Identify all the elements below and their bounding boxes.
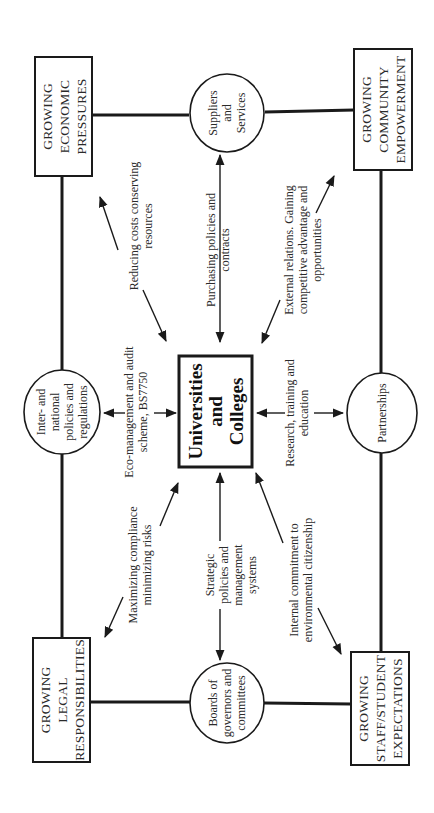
label-external-relations: External relations. Gaining competitive … <box>282 185 324 315</box>
circle-international-policies: Inter- and national policies and regulat… <box>24 370 100 454</box>
external-line-2: competitive advantage and <box>296 186 310 315</box>
circle-suppliers-and-services: Suppliers and Services <box>190 74 264 152</box>
circle-partnerships: Partnerships <box>347 373 417 453</box>
arrow-compliance-to-center <box>160 483 178 526</box>
label-strategic: Strategic policies and management system… <box>202 541 264 609</box>
box-universities-and-colleges: Universities and Colleges <box>179 356 252 467</box>
suppliers-line-3: Services <box>234 92 248 133</box>
boards-line-3: committees <box>234 675 248 731</box>
purchasing-line-1: Purchasing policies and <box>204 193 218 307</box>
box-economic-pressures: GROWING ECONOMIC PRESSURES <box>35 57 92 176</box>
strategic-line-4: systems <box>245 556 259 594</box>
research-line-2: education <box>297 390 311 437</box>
economic-line-1: GROWING <box>40 83 55 150</box>
arrow-internal-to-center <box>256 473 283 543</box>
boards-line-1: Boards of <box>206 680 220 727</box>
label-reducing-costs: Reducing costs conserving resources <box>127 162 155 291</box>
eco-line-2: scheme, BS7750 <box>136 372 150 453</box>
line-boards-to-staff <box>264 703 351 704</box>
box-legal-responsibilities: GROWING LEGAL RESPONSIBILITIES <box>33 638 90 762</box>
center-line-3: Colleges <box>226 378 247 446</box>
line-suppliers-to-community <box>265 110 354 112</box>
international-line-3: policies and <box>62 383 76 441</box>
legal-line-3: RESPONSIBILITIES <box>72 639 87 761</box>
partnerships-line-1: Partnerships <box>375 383 389 443</box>
staff-line-1: GROWING <box>356 675 371 742</box>
arrow-reducing-to-center <box>143 290 166 341</box>
economic-line-3: PRESSURES <box>74 78 89 154</box>
internal-line-2: environmental citizenship <box>301 518 315 642</box>
purchasing-line-2: contracts <box>218 228 232 272</box>
reducing-costs-line-1: Reducing costs conserving <box>127 162 141 291</box>
external-line-3: opportunities <box>310 218 324 282</box>
strategic-line-1: Strategic <box>203 554 217 597</box>
external-line-1: External relations. Gaining <box>282 185 296 315</box>
research-line-1: Research, training and <box>283 359 297 467</box>
box-community-empowerment: GROWING COMMUNITY EMPOWERMENT <box>354 49 412 170</box>
arrow-to-legal <box>105 597 123 637</box>
label-compliance: Maximizing compliance minimizing risks <box>126 507 154 624</box>
community-line-2: COMMUNITY <box>376 66 391 153</box>
box-staff-student-expectations: GROWING STAFF/STUDENT EXPECTATIONS <box>351 652 409 765</box>
diagram-canvas: GROWING ECONOMIC PRESSURES GROWING COMMU… <box>0 0 434 813</box>
label-research: Research, training and education <box>283 359 311 467</box>
internal-line-1: Internal commitment to <box>287 523 301 636</box>
diagram-svg: GROWING ECONOMIC PRESSURES GROWING COMMU… <box>0 0 434 813</box>
arrow-external-to-center <box>262 300 280 343</box>
eco-line-1: Eco-management and audit <box>122 346 136 478</box>
center-line-2: and <box>205 396 226 427</box>
strategic-line-3: management <box>231 544 245 606</box>
arrow-to-economic <box>100 197 118 250</box>
arrow-to-staff <box>318 608 341 654</box>
compliance-line-1: Maximizing compliance <box>126 507 140 624</box>
staff-line-2: STAFF/STUDENT <box>373 654 388 762</box>
strategic-line-2: policies and <box>217 546 231 604</box>
international-line-1: Inter- and <box>34 389 48 436</box>
label-internal-commitment: Internal commitment to environmental cit… <box>287 518 315 642</box>
economic-line-2: ECONOMIC <box>57 80 72 154</box>
suppliers-line-2: and <box>220 104 234 121</box>
center-line-1: Universities <box>185 363 206 459</box>
boards-line-2: governors and <box>220 669 234 737</box>
staff-line-3: EXPECTATIONS <box>390 658 405 758</box>
international-line-4: regulations <box>76 385 90 439</box>
legal-line-1: GROWING <box>38 667 53 734</box>
arrow-to-community <box>316 176 334 213</box>
community-line-1: GROWING <box>359 76 374 143</box>
compliance-line-2: minimizing risks <box>140 524 154 605</box>
reducing-costs-line-2: resources <box>141 203 155 249</box>
label-purchasing: Purchasing policies and contracts <box>204 193 232 307</box>
label-eco-management: Eco-management and audit scheme, BS7750 <box>122 346 150 478</box>
community-line-3: EMPOWERMENT <box>393 55 408 163</box>
legal-line-2: LEGAL <box>55 677 70 722</box>
suppliers-line-1: Suppliers <box>206 90 220 136</box>
circle-boards-of-governors: Boards of governors and committees <box>190 663 264 743</box>
international-line-2: national <box>48 392 62 431</box>
